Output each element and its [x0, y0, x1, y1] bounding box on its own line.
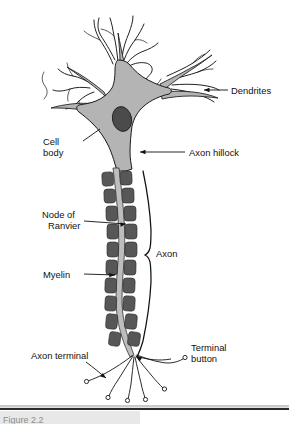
terminal-button-bulb: [162, 387, 166, 391]
label-axon: Axon: [156, 248, 177, 259]
label-axon-hillock: Axon hillock: [189, 147, 239, 158]
axon-bracket: [137, 171, 151, 357]
axon-terminal-group: [84, 355, 187, 403]
label-myelin: Myelin: [43, 269, 70, 280]
terminal-button-bulb: [106, 395, 110, 399]
label-node-of-ranvier-line1: Node of: [42, 209, 75, 220]
label-cell-body-line2: body: [43, 147, 64, 158]
label-cell-body-line1: Cell: [43, 136, 59, 147]
neuron-figure: Dendrites Cell body Axon hillock Node of…: [0, 0, 289, 424]
neuron-diagram-svg: Dendrites Cell body Axon hillock Node of…: [0, 0, 289, 424]
terminal-button-bulb: [143, 397, 147, 401]
footer-rule-light: [0, 405, 289, 408]
label-axon-terminal: Axon terminal: [31, 350, 88, 361]
terminal-button-bulb: [183, 355, 187, 359]
label-dendrites: Dendrites: [231, 85, 271, 96]
figure-footer: Figure 2.2: [0, 405, 289, 424]
label-terminal-button-line2: button: [191, 353, 217, 364]
terminal-button-bulb: [125, 398, 129, 402]
figure-caption: Figure 2.2: [3, 415, 44, 424]
label-node-of-ranvier-line2: Ranvier: [48, 220, 80, 231]
footer-rule-dark: [0, 408, 289, 410]
label-terminal-button-line1: Terminal: [191, 342, 226, 353]
terminal-button-bulb: [84, 379, 88, 383]
